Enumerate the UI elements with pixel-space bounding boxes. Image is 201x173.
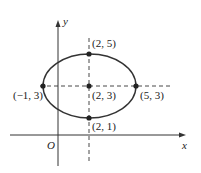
point-center [86,83,91,88]
x-axis-arrow-icon [179,133,186,138]
x-axis-label: x [181,139,187,151]
origin-label: O [47,139,55,151]
point-bottom [86,115,91,120]
label-center: (2, 3) [92,89,116,102]
point-left [40,83,45,88]
label-right: (5, 3) [140,89,164,102]
point-top [86,51,91,56]
label-top: (2, 5) [92,37,116,50]
point-right [133,83,138,88]
y-axis-arrow-icon [56,20,61,27]
ellipse-diagram: (2, 5) (2, 3) (−1, 3) (5, 3) (2, 1) x y … [0,0,201,173]
y-axis-label: y [62,15,68,27]
label-left: (−1, 3) [13,89,43,102]
label-bottom: (2, 1) [92,120,116,133]
